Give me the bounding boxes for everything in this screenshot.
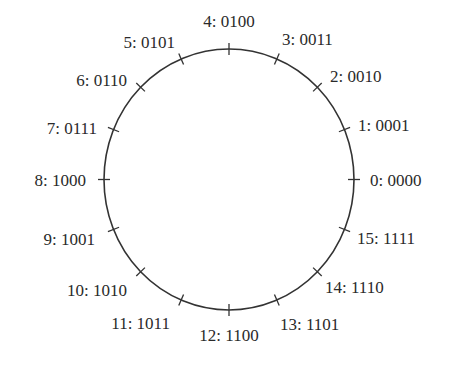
node-label: 10: 1010 <box>67 281 127 300</box>
node-label: 5: 0101 <box>124 33 175 52</box>
node-label: 12: 1100 <box>199 326 258 345</box>
node-label: 8: 1000 <box>35 171 86 190</box>
node-label: 2: 0010 <box>330 67 381 86</box>
node-label: 15: 1111 <box>357 229 415 248</box>
node-labels: 0: 00001: 00012: 00103: 00114: 01005: 01… <box>35 12 422 345</box>
node-label: 14: 1110 <box>325 278 384 297</box>
tick-marks <box>98 43 360 316</box>
node-label: 0: 0000 <box>370 171 421 190</box>
node-label: 11: 1011 <box>111 314 170 333</box>
node-label: 6: 0110 <box>76 71 127 90</box>
node-label: 1: 0001 <box>358 116 409 135</box>
node-label: 4: 0100 <box>203 12 254 31</box>
binary-circle-svg: 0: 00001: 00012: 00103: 00114: 01005: 01… <box>0 0 449 365</box>
node-label: 9: 1001 <box>44 230 95 249</box>
node-label: 7: 0111 <box>47 119 97 138</box>
number-wheel-diagram: 0: 00001: 00012: 00103: 00114: 01005: 01… <box>0 0 449 365</box>
node-label: 13: 1101 <box>280 315 339 334</box>
node-label: 3: 0011 <box>282 30 333 49</box>
